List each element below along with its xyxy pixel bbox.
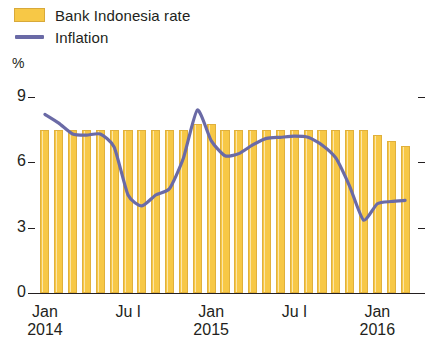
y-axis-tick-label-3: 3: [4, 218, 26, 236]
y-axis-tick-mark-left-0: [28, 293, 35, 294]
x-axis-tick-month-1: Ju l: [116, 303, 141, 320]
y-axis-tick-mark-left-3: [28, 228, 35, 229]
x-axis-tick-month-0: Jan: [32, 303, 58, 320]
x-axis-tick-year-4: 2016: [337, 321, 417, 339]
y-axis-tick-mark-right-0: [418, 293, 425, 294]
x-axis-tick-month-4: Jan: [364, 303, 390, 320]
inflation-line-layer: [0, 0, 429, 351]
x-axis-tick-year-2: 2015: [171, 321, 251, 339]
x-axis-tick-label-0: Jan2014: [5, 303, 85, 339]
chart-figure: Bank Indonesia rate Inflation % 9630Jan2…: [0, 0, 429, 351]
x-axis-tick-label-4: Jan2016: [337, 303, 417, 339]
y-axis-tick-mark-left-9: [28, 97, 35, 98]
inflation-line-path: [45, 110, 405, 220]
y-axis-tick-mark-right-6: [418, 162, 425, 163]
x-axis-tick-label-3: Ju l: [254, 303, 334, 321]
y-axis-tick-mark-right-9: [418, 97, 425, 98]
y-axis-tick-mark-right-3: [418, 228, 425, 229]
x-axis-tick-label-2: Jan2015: [171, 303, 251, 339]
y-axis-tick-mark-left-6: [28, 162, 35, 163]
x-axis-tick-year-0: 2014: [5, 321, 85, 339]
y-axis-tick-label-6: 6: [4, 152, 26, 170]
x-axis-tick-month-3: Ju l: [282, 303, 307, 320]
y-axis-tick-label-0: 0: [4, 283, 26, 301]
x-axis-tick-month-2: Jan: [198, 303, 224, 320]
y-axis-tick-label-9: 9: [4, 87, 26, 105]
x-axis-tick-label-1: Ju l: [88, 303, 168, 321]
